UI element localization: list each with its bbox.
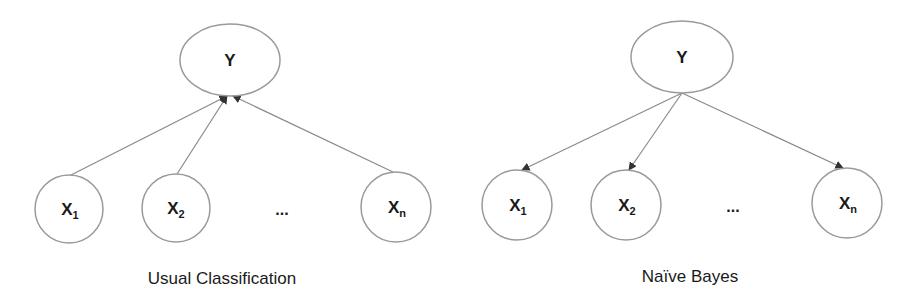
feature-base: X xyxy=(509,196,520,215)
edge-xn-to-y xyxy=(233,96,393,172)
edge-x2-to-y xyxy=(177,96,227,174)
feature-base: X xyxy=(839,194,850,213)
edge-y-to-x2 xyxy=(629,93,682,170)
feature-node-x1-label: X1 xyxy=(61,201,78,218)
feature-subscript: 2 xyxy=(630,205,636,217)
feature-base: X xyxy=(167,199,178,218)
feature-base: X xyxy=(61,200,72,219)
feature-node-x2-label: X2 xyxy=(618,197,635,214)
edge-y-to-x1 xyxy=(522,93,682,170)
edge-x1-to-y xyxy=(71,96,227,175)
feature-subscript: 1 xyxy=(73,209,79,221)
class-node-y-label: Y xyxy=(224,52,235,69)
feature-subscript: 1 xyxy=(521,205,527,217)
diagram-canvas: Y X1 X2 Xn ... Usual Classification Y X1… xyxy=(0,0,915,300)
feature-subscript: n xyxy=(850,203,857,215)
caption-usual-classification: Usual Classification xyxy=(148,270,296,287)
caption-naive-bayes: Naïve Bayes xyxy=(642,268,738,285)
edge-y-to-xn xyxy=(682,93,843,168)
ellipsis: ... xyxy=(275,202,288,218)
feature-node-xn-label: Xn xyxy=(839,195,857,212)
feature-node-xn-label: Xn xyxy=(388,199,406,216)
class-node-y-label: Y xyxy=(676,49,687,66)
feature-base: X xyxy=(618,196,629,215)
graph-svg xyxy=(0,0,915,300)
feature-subscript: n xyxy=(399,207,406,219)
feature-node-x1-label: X1 xyxy=(509,197,526,214)
feature-node-x2-label: X2 xyxy=(167,200,184,217)
feature-subscript: 2 xyxy=(179,208,185,220)
ellipsis: ... xyxy=(726,199,739,215)
feature-base: X xyxy=(388,198,399,217)
